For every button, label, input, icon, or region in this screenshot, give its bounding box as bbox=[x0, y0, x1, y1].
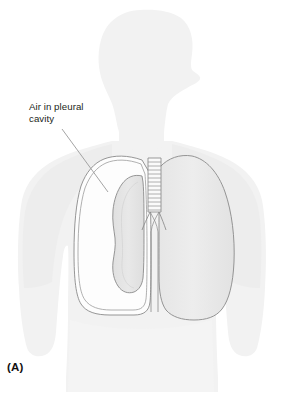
collapsed-lung bbox=[113, 175, 144, 292]
pneumothorax-figure: Air in pleural cavity (A) bbox=[0, 0, 282, 400]
chest-shading bbox=[68, 320, 214, 392]
anatomy-illustration bbox=[0, 0, 282, 400]
panel-label: (A) bbox=[7, 361, 24, 373]
collapsed-lung-shape bbox=[113, 175, 144, 292]
callout-label-air-in-pleural-cavity: Air in pleural cavity bbox=[29, 101, 115, 124]
